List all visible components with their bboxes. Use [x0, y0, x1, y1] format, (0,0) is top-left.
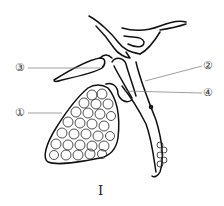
label-4: ④ — [203, 87, 213, 98]
hepatic-ducts — [89, 16, 186, 58]
label-1: ① — [15, 107, 25, 118]
figure-caption: I — [98, 184, 103, 197]
gallstones — [50, 89, 116, 160]
leader-line-2 — [145, 66, 202, 81]
gallbladder-diagram — [0, 0, 224, 206]
cystic-duct — [106, 58, 136, 101]
leader-lines — [28, 66, 202, 113]
label-3: ③ — [15, 62, 25, 73]
label-2: ② — [203, 60, 213, 71]
